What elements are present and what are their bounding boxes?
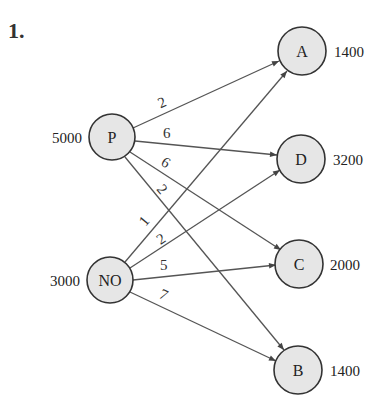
edge-P-A xyxy=(133,61,279,128)
transportation-network-diagram: 2 6 6 2 1 2 5 7 P 5000 NO 3000 A 1400 D … xyxy=(0,0,388,415)
edge-NO-A xyxy=(125,71,287,262)
node-B-label: B xyxy=(293,362,304,379)
node-D-label: D xyxy=(295,151,307,168)
supply-NO: 3000 xyxy=(50,273,80,289)
node-P-label: P xyxy=(108,129,117,146)
edge-NO-C xyxy=(133,265,276,280)
edge-label-NO-B: 7 xyxy=(157,286,171,304)
edge-label-NO-A: 1 xyxy=(136,213,153,229)
edge-NO-B xyxy=(130,292,276,361)
demand-B: 1400 xyxy=(330,363,360,379)
node-NO-label: NO xyxy=(98,272,121,289)
edge-P-B xyxy=(125,157,284,350)
edges xyxy=(125,61,287,361)
edge-labels: 2 6 6 2 1 2 5 7 xyxy=(136,94,174,304)
edge-label-P-C: 6 xyxy=(158,154,173,172)
demand-C: 2000 xyxy=(330,257,360,273)
node-B: B xyxy=(274,346,322,394)
edge-label-NO-C: 5 xyxy=(160,257,168,273)
demand-A: 1400 xyxy=(334,44,364,60)
edge-label-NO-D: 2 xyxy=(153,230,168,248)
edge-label-P-A: 2 xyxy=(155,94,168,112)
node-C-label: C xyxy=(294,256,305,273)
node-D: D xyxy=(277,135,325,183)
node-A-label: A xyxy=(296,43,308,60)
supply-P: 5000 xyxy=(52,130,82,146)
edge-label-P-D: 6 xyxy=(163,125,171,141)
node-NO: NO xyxy=(87,257,133,303)
edge-P-D xyxy=(135,141,277,155)
demand-D: 3200 xyxy=(333,152,363,168)
node-C: C xyxy=(275,240,323,288)
node-A: A xyxy=(278,27,326,75)
node-P: P xyxy=(89,114,135,160)
